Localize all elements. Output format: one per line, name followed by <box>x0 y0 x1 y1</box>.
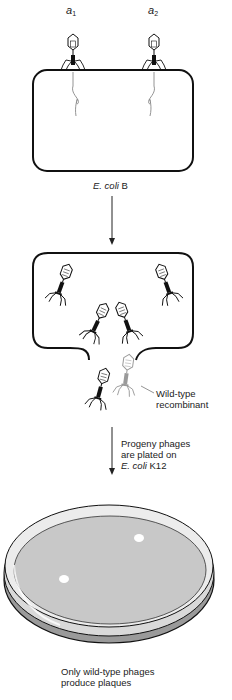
recombinant-label: Wild-type recombinant <box>156 388 208 410</box>
phage-a2-icon <box>142 34 166 70</box>
phage-a1-icon <box>61 34 85 70</box>
progeny-phage-icon <box>149 261 184 308</box>
diagram-canvas <box>0 0 232 700</box>
plaque-caption-line2: produce plaques <box>61 677 154 688</box>
plating-label: Progeny phages are plated on E. coli K12 <box>121 438 190 471</box>
lysing-cell <box>33 253 193 360</box>
phage-label-a2: a2 <box>148 5 158 19</box>
plaque-caption-line1: Only wild-type phages <box>61 666 154 677</box>
plating-label-strain: K12 <box>147 460 167 471</box>
plaque <box>134 534 144 542</box>
released-phage-icon <box>84 365 116 411</box>
arrow-infection-to-lysis <box>109 196 115 245</box>
plating-label-line2: are plated on <box>121 449 190 460</box>
recombinant-label-line1: Wild-type <box>156 388 208 399</box>
host-label-strain: B <box>119 180 128 191</box>
arrow-plating <box>109 427 115 475</box>
plating-label-line3: E. coli K12 <box>121 460 190 471</box>
progeny-phage-icon <box>78 299 116 346</box>
stage1-group <box>33 34 193 171</box>
host-label-species: E. coli <box>93 180 119 191</box>
phage-label-a1-subscript: 1 <box>72 10 76 17</box>
plating-label-species: E. coli <box>121 460 147 471</box>
plating-label-line1: Progeny phages <box>121 438 190 449</box>
petri-dish <box>4 505 214 643</box>
phage-label-a2-subscript: 2 <box>154 10 158 17</box>
progeny-phage-icon <box>44 261 79 308</box>
agar-lawn <box>14 516 206 624</box>
plaque <box>59 575 69 583</box>
plaque-caption: Only wild-type phages produce plaques <box>61 666 154 688</box>
host-label-ecoli-b: E. coli B <box>93 180 128 191</box>
recombinant-label-line2: recombinant <box>156 399 208 410</box>
ecoli-b-cell <box>33 70 193 171</box>
recombinant-leader-line <box>141 386 154 393</box>
progeny-phage-icon <box>109 299 144 346</box>
phage-label-a1: a1 <box>66 5 76 19</box>
